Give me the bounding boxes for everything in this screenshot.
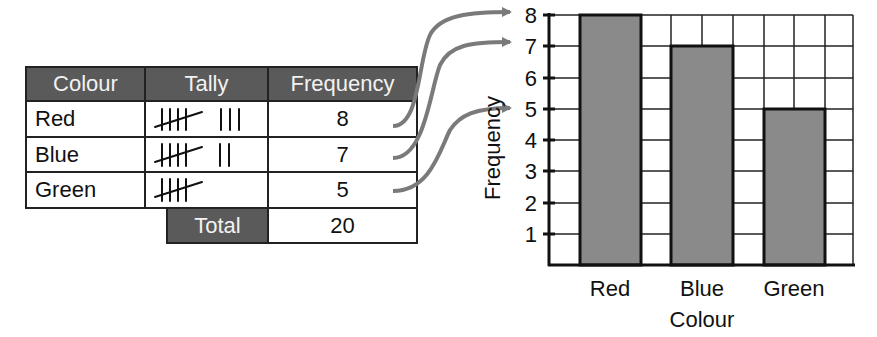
bars <box>580 15 825 265</box>
svg-text:Red: Red <box>590 276 630 301</box>
x-axis-label: Colour <box>670 307 735 332</box>
svg-text:6: 6 <box>525 66 537 91</box>
y-tick-labels: 8 7 6 5 4 3 2 1 <box>525 3 537 247</box>
tally-green-icon <box>155 179 202 201</box>
svg-text:Green: Green <box>763 276 824 301</box>
svg-text:1: 1 <box>525 222 537 247</box>
svg-text:5: 5 <box>525 97 537 122</box>
bar-red <box>580 15 641 265</box>
tally-marks <box>155 109 239 201</box>
svg-text:Blue: Blue <box>680 276 724 301</box>
svg-text:2: 2 <box>525 191 537 216</box>
x-tick-labels: Red Blue Green <box>590 276 825 301</box>
tally-blue-icon <box>155 144 229 166</box>
svg-text:3: 3 <box>525 159 537 184</box>
svg-text:4: 4 <box>525 128 537 153</box>
y-axis-label: Frequency <box>480 96 505 200</box>
svg-text:8: 8 <box>525 3 537 28</box>
bar-blue <box>671 46 733 265</box>
tally-red-icon <box>155 109 239 130</box>
bar-green <box>764 109 825 265</box>
chart-svg: 8 7 6 5 4 3 2 1 Red Blue Green Colour Fr… <box>0 0 877 337</box>
svg-text:7: 7 <box>525 34 537 59</box>
